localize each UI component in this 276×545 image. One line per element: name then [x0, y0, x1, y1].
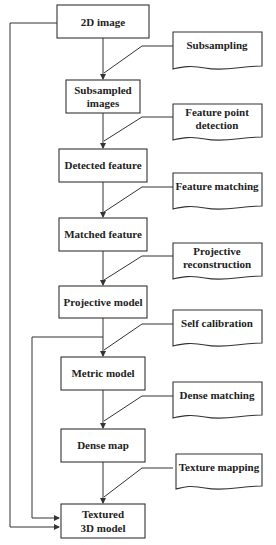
bypass-2d-to-textured	[10, 23, 59, 527]
leader-feature-matching	[104, 187, 173, 212]
label-dense-map: Dense map	[77, 439, 129, 451]
label-textured-3d-model-2: 3D model	[81, 522, 126, 534]
leader-dense-matching	[104, 396, 173, 421]
leader-feature-point-detection	[104, 117, 173, 141]
label-projective-reconstruction-1: Projective	[193, 245, 241, 257]
label-detected-feature: Detected feature	[64, 159, 141, 171]
label-feature-point-detection-1: Feature point	[185, 106, 249, 118]
flowchart: 2D image Subsampled images Detected feat…	[0, 0, 276, 545]
leader-self-calibration	[104, 324, 173, 350]
label-metric-model: Metric model	[71, 367, 134, 379]
label-texture-mapping: Texture mapping	[179, 461, 260, 473]
label-feature-matching: Feature matching	[175, 180, 259, 192]
label-subsampling: Subsampling	[186, 39, 248, 51]
label-self-calibration: Self calibration	[181, 317, 253, 329]
leader-texture-mapping	[104, 468, 173, 497]
label-2d-image: 2D image	[81, 16, 125, 28]
leader-subsampling	[104, 46, 173, 73]
label-textured-3d-model-1: Textured	[82, 508, 124, 520]
label-subsampled-images-1: Subsampled	[74, 84, 131, 96]
label-matched-feature: Matched feature	[64, 228, 142, 240]
leader-projective-reconstruction	[104, 256, 173, 280]
label-feature-point-detection-2: detection	[196, 119, 239, 131]
label-subsampled-images-2: images	[87, 97, 120, 109]
label-projective-reconstruction-2: reconstruction	[183, 258, 251, 270]
label-dense-matching: Dense matching	[180, 389, 255, 401]
label-projective-model: Projective model	[64, 296, 143, 308]
